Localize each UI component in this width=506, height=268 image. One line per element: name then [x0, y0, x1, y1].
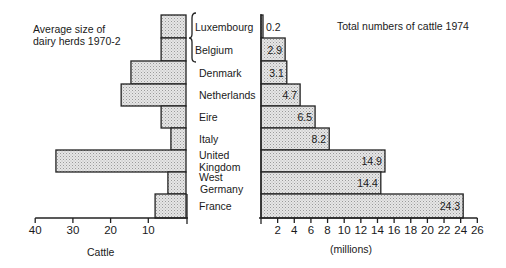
country-label: Denmark	[199, 67, 242, 79]
cattle-chart: Average size of dairy herds 1970-2 Total…	[0, 0, 506, 268]
left-bar-denmark	[131, 61, 186, 84]
left-bar-france	[155, 194, 186, 218]
right-tick-label: 16	[388, 224, 401, 236]
value-label: 3.1	[269, 67, 284, 79]
left-tick-label: 10	[142, 224, 155, 236]
country-label: Luxembourg	[195, 21, 254, 33]
left-tick-label: 20	[104, 224, 117, 236]
right-tick-label: 14	[371, 224, 384, 236]
right-tick-label: 26	[471, 224, 484, 236]
left-bar-west-germany	[168, 172, 186, 194]
country-labels-group: LuxembourgBelgiumDenmarkNetherlandsEireI…	[195, 21, 256, 213]
left-bar-luxembourg	[161, 15, 186, 38]
country-label: United	[199, 149, 230, 161]
right-bars-group: 0.22.93.14.76.58.214.914.424.3	[261, 15, 463, 218]
right-tick-label: 2	[274, 224, 280, 236]
left-tick-label: 30	[67, 224, 80, 236]
left-axis-label: Cattle	[87, 246, 115, 258]
right-bar-france	[261, 194, 463, 218]
right-axis-label: (millions)	[330, 243, 372, 255]
right-tick-label: 20	[421, 224, 434, 236]
right-tick-label: 22	[438, 224, 451, 236]
left-bar-italy	[171, 128, 186, 150]
country-label: Belgium	[195, 44, 233, 56]
left-bar-eire	[161, 106, 186, 128]
right-tick-label: 8	[324, 224, 330, 236]
country-label: Italy	[199, 133, 219, 145]
value-label: 8.2	[312, 133, 327, 145]
left-bar-netherlands	[121, 84, 186, 106]
right-tick-label: 18	[404, 224, 417, 236]
value-label: 14.9	[362, 155, 383, 167]
value-label: 0.2	[266, 21, 281, 33]
right-tick-label: 10	[338, 224, 351, 236]
value-label: 6.5	[297, 111, 312, 123]
right-tick-label: 6	[308, 224, 314, 236]
left-bar-united-kingdom	[56, 150, 186, 172]
value-label: 2.9	[268, 44, 283, 56]
right-tick-label: 12	[354, 224, 367, 236]
country-label: West	[199, 171, 223, 183]
country-label: Eire	[199, 111, 218, 123]
country-label: France	[199, 200, 232, 212]
value-label: 14.4	[357, 177, 378, 189]
left-bar-belgium	[161, 38, 186, 61]
right-tick-label: 24	[454, 224, 467, 236]
left-tick-label: 40	[29, 224, 42, 236]
country-label: Germany	[200, 183, 244, 195]
right-chart-title: Total numbers of cattle 1974	[337, 20, 469, 32]
country-label: Netherlands	[199, 89, 256, 101]
left-chart-title-line-2: dairy herds 1970-2	[33, 35, 121, 47]
value-label: 24.3	[440, 200, 461, 212]
right-tick-label: 4	[291, 224, 298, 236]
value-label: 4.7	[282, 89, 297, 101]
left-chart-title-line-1: Average size of	[33, 23, 105, 35]
